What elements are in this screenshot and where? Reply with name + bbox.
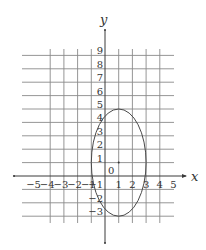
x-tick-label: −2 [67, 179, 82, 190]
x-tick-label: 1 [116, 179, 122, 190]
x-tick-label: 2 [129, 179, 135, 190]
x-tick-label: −4 [40, 179, 55, 190]
y-axis-title: y [99, 12, 108, 27]
y-tick-label: 1 [97, 153, 103, 164]
y-tick-label: 3 [97, 126, 103, 137]
y-tick-label: 4 [97, 112, 103, 123]
y-tick-label: −1 [88, 179, 103, 190]
y-tick-label: 6 [97, 86, 103, 97]
y-tick-label: 8 [97, 59, 103, 70]
y-axis-top-dot [104, 29, 106, 31]
tick-labels: −5−4−3−2−112345987654321−1−2−30 [26, 45, 177, 217]
x-axis-arrow-icon [182, 174, 187, 178]
x-tick-label: −3 [54, 179, 69, 190]
y-axis-bottom-dot [104, 242, 106, 244]
y-tick-label: 2 [97, 139, 103, 150]
graph-figure: −5−4−3−2−112345987654321−1−2−30 y x [0, 0, 206, 250]
y-tick-label: −2 [88, 193, 103, 204]
x-tick-label: 5 [170, 179, 176, 190]
y-tick-label: 7 [97, 72, 103, 83]
coordinate-plane: −5−4−3−2−112345987654321−1−2−30 y x [0, 0, 206, 250]
x-axis-start-dot [13, 175, 15, 177]
center-point [118, 162, 120, 164]
origin-label: 0 [108, 165, 114, 176]
x-tick-label: 4 [157, 179, 163, 190]
y-tick-label: 9 [97, 45, 103, 56]
y-tick-label: −3 [88, 206, 103, 217]
x-axis-title: x [191, 169, 199, 184]
y-tick-label: 5 [97, 99, 103, 110]
x-tick-label: 3 [143, 179, 149, 190]
x-tick-label: −5 [26, 179, 41, 190]
